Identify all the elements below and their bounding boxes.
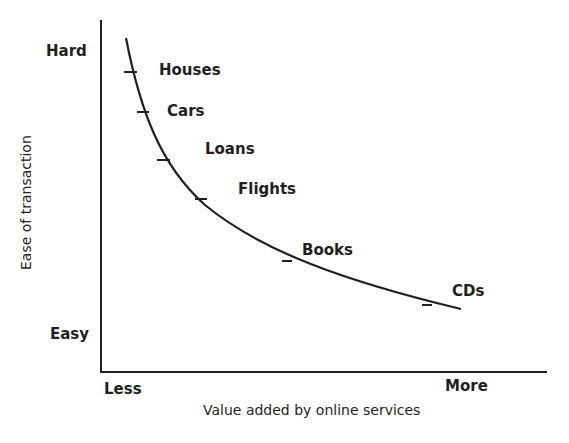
item-label-flights: Flights bbox=[238, 180, 296, 198]
x-label-more: More bbox=[445, 377, 488, 395]
item-label-houses: Houses bbox=[159, 61, 221, 79]
x-label-less: Less bbox=[104, 380, 142, 398]
y-label-easy: Easy bbox=[50, 325, 89, 343]
item-label-cars: Cars bbox=[167, 102, 204, 120]
x-axis-title: Value added by online services bbox=[203, 402, 420, 418]
y-axis-title: Ease of transaction bbox=[18, 135, 34, 270]
item-label-books: Books bbox=[302, 241, 353, 259]
item-label-loans: Loans bbox=[205, 140, 255, 158]
y-label-hard: Hard bbox=[46, 42, 87, 60]
item-label-cds: CDs bbox=[452, 282, 484, 300]
